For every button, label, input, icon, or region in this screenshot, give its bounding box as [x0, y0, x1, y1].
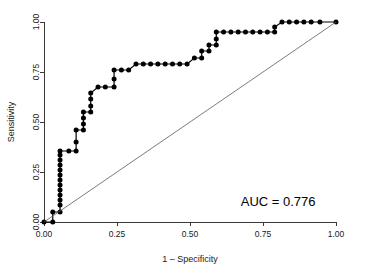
roc-data-point — [279, 20, 284, 25]
roc-data-point — [103, 85, 108, 90]
roc-data-point — [58, 158, 63, 163]
roc-data-point — [163, 62, 168, 67]
y-tick-label: 0.25 — [31, 163, 41, 180]
roc-data-point — [206, 43, 211, 48]
y-axis-title: Sensitivity — [6, 101, 16, 142]
roc-data-point — [185, 62, 190, 67]
roc-data-point — [58, 183, 63, 188]
roc-data-point — [74, 128, 79, 133]
x-tick-label: 1.00 — [328, 229, 345, 239]
roc-data-point — [301, 20, 306, 25]
x-tick-label: 0.50 — [182, 229, 199, 239]
roc-data-point — [96, 85, 101, 90]
roc-data-point — [58, 173, 63, 178]
roc-data-point — [58, 163, 63, 168]
roc-data-point — [66, 149, 71, 154]
x-tick-label: 0.75 — [255, 229, 272, 239]
auc-label: AUC = 0.776 — [241, 194, 316, 209]
y-tick-label: 0.75 — [31, 63, 41, 80]
roc-data-point — [58, 149, 63, 154]
roc-data-point — [81, 128, 86, 133]
roc-data-point — [58, 198, 63, 203]
roc-data-point — [112, 77, 117, 82]
roc-data-point — [214, 43, 219, 48]
roc-data-point — [50, 220, 55, 225]
roc-data-point — [199, 56, 204, 61]
reference-diagonal-line — [44, 22, 336, 222]
roc-data-point — [58, 193, 63, 198]
y-tick-label: 0.00 — [31, 213, 41, 230]
roc-data-point — [272, 30, 277, 35]
roc-data-point — [250, 30, 255, 35]
roc-data-point — [221, 30, 226, 35]
roc-data-point — [119, 68, 124, 73]
roc-data-point — [88, 97, 93, 102]
roc-data-point — [133, 62, 138, 67]
roc-data-point — [126, 68, 131, 73]
x-axis-title: 1 – Specificity — [162, 254, 218, 264]
roc-data-point — [214, 30, 219, 35]
x-tick-label: 0.25 — [109, 229, 126, 239]
roc-data-point — [74, 140, 79, 145]
roc-data-point — [192, 56, 197, 61]
roc-data-point — [58, 168, 63, 173]
roc-data-point — [141, 62, 146, 67]
roc-data-point — [81, 110, 86, 115]
roc-data-point — [155, 62, 160, 67]
roc-data-point — [50, 210, 55, 215]
roc-data-point — [287, 20, 292, 25]
roc-data-point — [112, 85, 117, 90]
y-tick-label: 1.00 — [31, 13, 41, 30]
y-tick-label: 0.50 — [31, 113, 41, 130]
roc-data-point — [81, 122, 86, 127]
roc-data-point — [214, 37, 219, 42]
roc-data-point — [272, 25, 277, 30]
roc-data-point — [236, 30, 241, 35]
roc-data-point — [228, 30, 233, 35]
roc-data-point — [81, 116, 86, 121]
roc-data-point — [58, 178, 63, 183]
roc-data-point — [243, 30, 248, 35]
roc-data-point — [206, 49, 211, 54]
roc-data-point — [265, 30, 270, 35]
roc-data-point — [88, 104, 93, 109]
roc-data-point — [317, 20, 322, 25]
roc-data-point — [88, 110, 93, 115]
roc-data-point — [170, 62, 175, 67]
roc-data-point — [74, 149, 79, 154]
roc-data-point — [88, 91, 93, 96]
roc-plot-svg: 0.000.250.500.751.000.000.250.500.751.00… — [0, 0, 373, 274]
roc-data-point — [177, 62, 182, 67]
roc-data-point — [309, 20, 314, 25]
roc-data-point — [258, 30, 263, 35]
roc-chart: 0.000.250.500.751.000.000.250.500.751.00… — [0, 0, 373, 274]
roc-data-point — [58, 203, 63, 208]
roc-data-point — [199, 49, 204, 54]
roc-data-point — [294, 20, 299, 25]
roc-data-point — [148, 62, 153, 67]
roc-data-point — [58, 188, 63, 193]
roc-data-point — [112, 68, 117, 73]
